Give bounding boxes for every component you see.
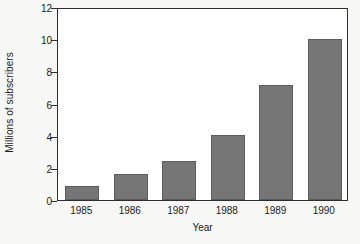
y-axis-tick-label: 6 (22, 99, 52, 110)
x-axis-tick-label-1988: 1988 (216, 205, 238, 216)
x-axis-tick-label-1986: 1986 (119, 205, 141, 216)
y-axis-tick-mark (51, 72, 57, 73)
x-axis-title: Year (57, 222, 348, 233)
x-axis-tick-label-1987: 1987 (167, 205, 189, 216)
y-axis-tick-mark (51, 169, 57, 170)
y-axis-tick-label: 10 (22, 35, 52, 46)
y-axis-tick-labels: 024681012 (22, 0, 52, 244)
y-axis-tick-label: 4 (22, 131, 52, 142)
y-axis-tick-mark (51, 8, 57, 9)
plot-area (57, 8, 348, 201)
x-axis-tick-label-1989: 1989 (264, 205, 286, 216)
y-axis-tick-label: 8 (22, 67, 52, 78)
bar-1988 (211, 135, 245, 200)
y-axis-title-text: Millions of subscribers (4, 52, 15, 153)
bar-1989 (259, 85, 293, 200)
bar-chart-figure: Millions of subscribers 024681012 198519… (0, 0, 360, 244)
bar-1986 (114, 174, 148, 200)
y-axis-tick-mark (51, 40, 57, 41)
x-axis-tick-label-1985: 1985 (70, 205, 92, 216)
x-axis-tick-labels: 198519861987198819891990 (57, 205, 348, 221)
bar-series (58, 9, 347, 200)
y-axis-tick-label: 2 (22, 163, 52, 174)
bar-1990 (308, 39, 342, 200)
y-axis-tick-mark (51, 105, 57, 106)
y-axis-tick-mark (51, 137, 57, 138)
y-axis-tick-label: 0 (22, 196, 52, 207)
bar-1987 (162, 161, 196, 200)
y-axis-tick-mark (51, 201, 57, 202)
bar-1985 (65, 186, 99, 200)
x-axis-tick-label-1990: 1990 (313, 205, 335, 216)
y-axis-tick-label: 12 (22, 3, 52, 14)
y-axis-title: Millions of subscribers (0, 0, 18, 205)
